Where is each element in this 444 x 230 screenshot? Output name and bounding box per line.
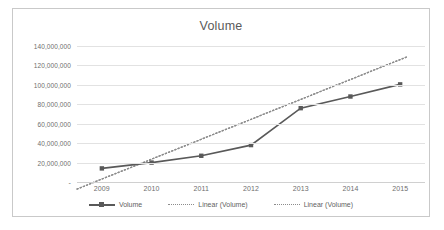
gridline	[77, 163, 425, 164]
plot-area	[77, 46, 425, 182]
gridline	[77, 85, 425, 86]
legend-item-label: Linear (Volume)	[198, 201, 247, 208]
y-axis-tick-label: 60,000,000	[37, 120, 71, 127]
legend-item[interactable]: Linear (Volume)	[168, 201, 247, 208]
legend-item[interactable]: Linear (Volume)	[274, 201, 353, 208]
y-axis-tick-label: -	[69, 179, 71, 186]
legend-item-label: Volume	[119, 201, 142, 208]
x-axis-tick-label: 2015	[392, 185, 408, 192]
data-point-marker	[299, 106, 303, 110]
legend-item-label: Linear (Volume)	[304, 201, 353, 208]
data-point-marker	[199, 154, 203, 158]
x-axis-tick-label: 2009	[94, 185, 110, 192]
legend-dotted-line-icon	[168, 201, 194, 208]
y-axis-tick-label: 40,000,000	[37, 140, 71, 147]
gridline	[77, 46, 425, 47]
y-axis-labels: -20,000,00040,000,00060,000,00080,000,00…	[13, 46, 73, 182]
gridline	[77, 65, 425, 66]
legend-line-icon	[89, 201, 115, 208]
x-axis-tick-label: 2014	[342, 185, 358, 192]
x-axis-tick-label: 2012	[243, 185, 259, 192]
x-axis-line	[77, 182, 425, 183]
series-line-volume	[102, 84, 400, 168]
data-point-marker	[348, 94, 352, 98]
x-axis-tick-label: 2010	[144, 185, 160, 192]
x-axis-tick-label: 2011	[194, 185, 209, 192]
y-axis-tick-label: 120,000,000	[34, 62, 71, 69]
legend-item[interactable]: Volume	[89, 201, 142, 208]
chart-legend: VolumeLinear (Volume)Linear (Volume)	[13, 201, 429, 208]
gridline	[77, 104, 425, 105]
data-point-marker	[100, 166, 104, 170]
y-axis-tick-label: 80,000,000	[37, 101, 71, 108]
x-axis-tick-label: 2013	[293, 185, 309, 192]
y-axis-tick-label: 140,000,000	[34, 43, 71, 50]
x-axis-labels: 2009201020112012201320142015	[77, 185, 425, 197]
gridline	[77, 143, 425, 144]
gridline	[77, 124, 425, 125]
chart-title: Volume	[13, 19, 429, 33]
y-axis-tick-label: 100,000,000	[34, 81, 71, 88]
chart-frame: Volume -20,000,00040,000,00060,000,00080…	[12, 8, 430, 217]
y-axis-tick-label: 20,000,000	[37, 159, 71, 166]
legend-dotted-line-icon	[274, 201, 300, 208]
